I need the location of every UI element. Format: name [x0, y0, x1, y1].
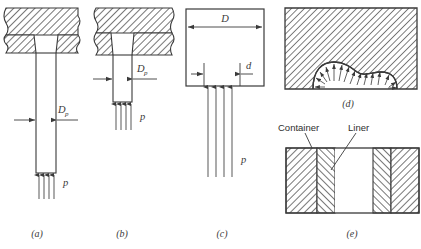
panel-e-liner-label: Liner — [348, 122, 369, 133]
panel-e-liner-right — [373, 148, 391, 213]
panel-e-container-leader-line — [305, 133, 312, 148]
panel-a-caption: (a) — [31, 228, 43, 240]
panel-b: D p p (b) — [93, 8, 174, 240]
panel-a-lower-block-left — [4, 35, 36, 53]
panel-d-caption: (d) — [342, 98, 354, 110]
panel-c-inner-diameter-symbol: d — [246, 60, 252, 71]
figure-canvas: D p p (a) D p p (b) — [0, 0, 421, 249]
panel-b-pressure-symbol: p — [139, 111, 145, 122]
panel-a-upper-block — [4, 8, 80, 35]
technical-figure: D p p (a) D p p (b) — [0, 0, 421, 249]
panel-b-punch-shank — [113, 55, 132, 102]
panel-e-container-left — [286, 148, 317, 213]
panel-e-bore-cavity — [335, 148, 373, 213]
panel-c-outer-diameter-symbol: D — [220, 13, 229, 24]
panel-e-caption: (e) — [346, 228, 358, 240]
panel-a-pressure-symbol: p — [62, 177, 68, 188]
panel-e-container-label: Container — [278, 122, 319, 133]
panel-d-block — [285, 8, 417, 89]
panel-e: Container Liner (e) — [278, 122, 419, 240]
panel-e-liner-left — [317, 148, 335, 213]
panel-a-punch-diameter-subscript: p — [64, 110, 69, 118]
panel-e-container-right — [391, 148, 419, 213]
panel-a-pressure-arrows — [39, 175, 54, 199]
panel-b-punch-diameter-subscript: p — [143, 69, 148, 77]
panel-b-lower-block-left — [94, 33, 113, 55]
panel-b-caption: (b) — [116, 228, 128, 240]
panel-b-lower-block-right — [132, 33, 174, 55]
panel-b-upper-block — [94, 8, 174, 33]
panel-c: D d p (c) — [186, 9, 264, 240]
panel-a-punch-shank — [36, 53, 56, 173]
panel-c-pressure-symbol: p — [240, 154, 246, 165]
panel-b-pressure-arrows — [116, 104, 131, 130]
panel-c-pressure-arrows — [208, 87, 232, 177]
panel-c-caption: (c) — [216, 228, 228, 240]
panel-a-lower-block-right — [56, 35, 80, 53]
panel-d: (d) — [285, 8, 417, 110]
panel-a: D p p (a) — [4, 8, 80, 240]
